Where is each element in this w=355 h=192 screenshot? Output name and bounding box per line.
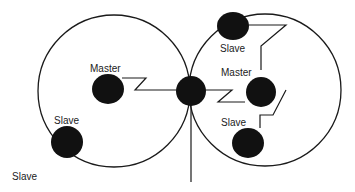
bridge-node bbox=[176, 76, 206, 106]
left-slave-label: Slave bbox=[54, 116, 79, 126]
right-bottom-slave-node bbox=[232, 128, 264, 158]
left-master-link bbox=[122, 78, 178, 90]
left-master-label: Master bbox=[90, 64, 121, 74]
right-master-node bbox=[246, 77, 276, 107]
right-bottom-slave-label: Slave bbox=[221, 118, 246, 128]
top-slave-link bbox=[247, 25, 286, 70]
right-top-slave-node bbox=[217, 12, 249, 40]
left-slave-node bbox=[51, 126, 83, 158]
right-bridge-link bbox=[205, 90, 245, 102]
right-master-label: Master bbox=[221, 68, 252, 78]
outer-slave-label: Slave bbox=[12, 172, 37, 182]
right-top-slave-label: Slave bbox=[220, 44, 245, 54]
left-master-node bbox=[92, 74, 124, 104]
diagram-canvas bbox=[0, 0, 355, 192]
scatternet-diagram: Master Slave Slave Slave Master Slave bbox=[0, 0, 355, 192]
